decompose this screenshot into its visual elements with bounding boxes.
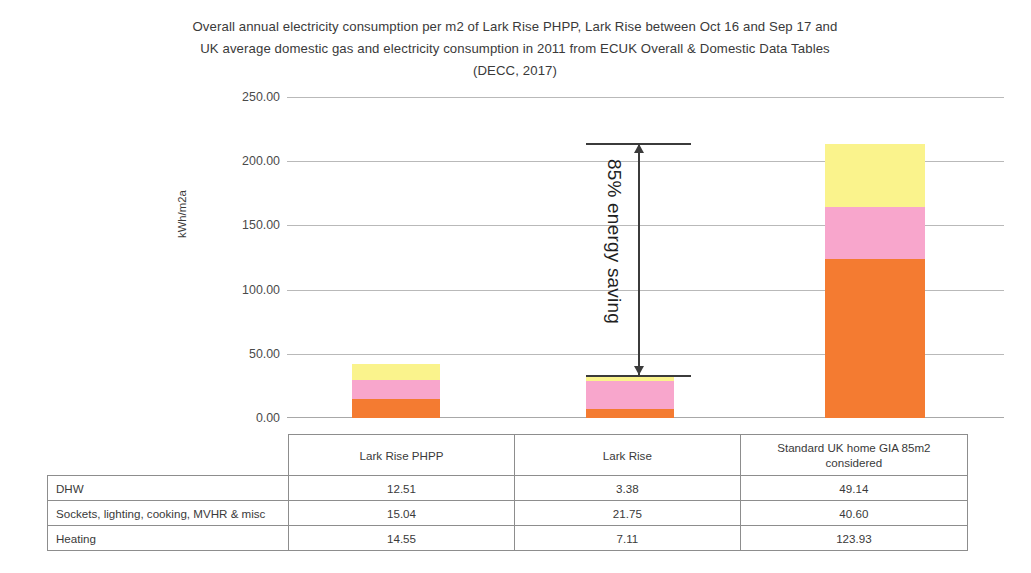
arrow-head-down <box>634 366 644 375</box>
table-cell: 14.55 <box>289 526 515 551</box>
table-row: Sockets, lighting, cooking, MVHR & misc … <box>48 501 968 526</box>
column-header-line: considered <box>826 456 883 469</box>
table-row: DHW 12.51 3.38 49.14 <box>48 476 968 501</box>
table-cell: 40.60 <box>740 501 967 526</box>
bar-segment-heating <box>352 399 440 418</box>
column-header-line: Lark Rise PHPP <box>360 449 444 462</box>
table-corner-cell <box>48 435 289 476</box>
table-cell: 49.14 <box>740 476 967 501</box>
bar-segment-dhw <box>825 144 925 207</box>
table-cell: 12.51 <box>289 476 515 501</box>
y-axis-ticks: 250.00 200.00 150.00 100.00 50.00 0.00 <box>205 97 280 418</box>
table-row-label-dhw: DHW <box>48 476 289 501</box>
table-column-header-lark-rise: Lark Rise <box>514 435 740 476</box>
table-header-row: Lark Rise PHPP Lark Rise Standard UK hom… <box>48 435 968 476</box>
y-tick-0: 0.00 <box>210 411 280 425</box>
reference-line-top <box>586 143 691 145</box>
column-header-line: Lark Rise <box>603 449 652 462</box>
table-cell: 21.75 <box>514 501 740 526</box>
bar-segment-sockets <box>825 207 925 259</box>
table-row: Heating 14.55 7.11 123.93 <box>48 526 968 551</box>
bar-segment-dhw <box>352 364 440 380</box>
table-cell: 3.38 <box>514 476 740 501</box>
y-tick-200: 200.00 <box>210 154 280 168</box>
y-tick-150: 150.00 <box>210 218 280 232</box>
gridline-250 <box>287 97 1004 98</box>
bar-segment-heating <box>825 259 925 418</box>
bar-lark-rise-phpp[interactable] <box>352 364 440 418</box>
table-cell: 15.04 <box>289 501 515 526</box>
table-cell: 7.11 <box>514 526 740 551</box>
y-tick-50: 50.00 <box>210 347 280 361</box>
table-cell: 123.93 <box>740 526 967 551</box>
arrow-shaft <box>638 144 640 375</box>
page-title: Overall annual electricity consumption p… <box>165 16 865 82</box>
arrow-head-up <box>634 144 644 153</box>
bar-lark-rise[interactable] <box>586 377 674 418</box>
energy-saving-label: 85% energy saving <box>603 159 625 324</box>
y-tick-100: 100.00 <box>210 283 280 297</box>
y-axis-label: kWh/m2a <box>176 190 188 238</box>
table-column-header-standard-uk-home: Standard UK home GIA 85m2 considered <box>740 435 967 476</box>
bar-segment-heating <box>586 409 674 418</box>
table-row-label-heating: Heating <box>48 526 289 551</box>
title-line-3: (DECC, 2017) <box>165 60 865 82</box>
bar-segment-sockets <box>586 381 674 409</box>
bar-standard-uk-home[interactable] <box>825 144 925 418</box>
data-table: Lark Rise PHPP Lark Rise Standard UK hom… <box>47 434 968 551</box>
chart-plot-area: 85% energy saving <box>287 97 1004 418</box>
column-header-line: Standard UK home GIA 85m2 <box>777 441 930 454</box>
bar-segment-sockets <box>352 380 440 399</box>
y-tick-250: 250.00 <box>210 90 280 104</box>
title-line-1: Overall annual electricity consumption p… <box>165 16 865 38</box>
table-column-header-lark-rise-phpp: Lark Rise PHPP <box>289 435 515 476</box>
title-line-2: UK average domestic gas and electricity … <box>165 38 865 60</box>
table-row-label-sockets: Sockets, lighting, cooking, MVHR & misc <box>48 501 289 526</box>
